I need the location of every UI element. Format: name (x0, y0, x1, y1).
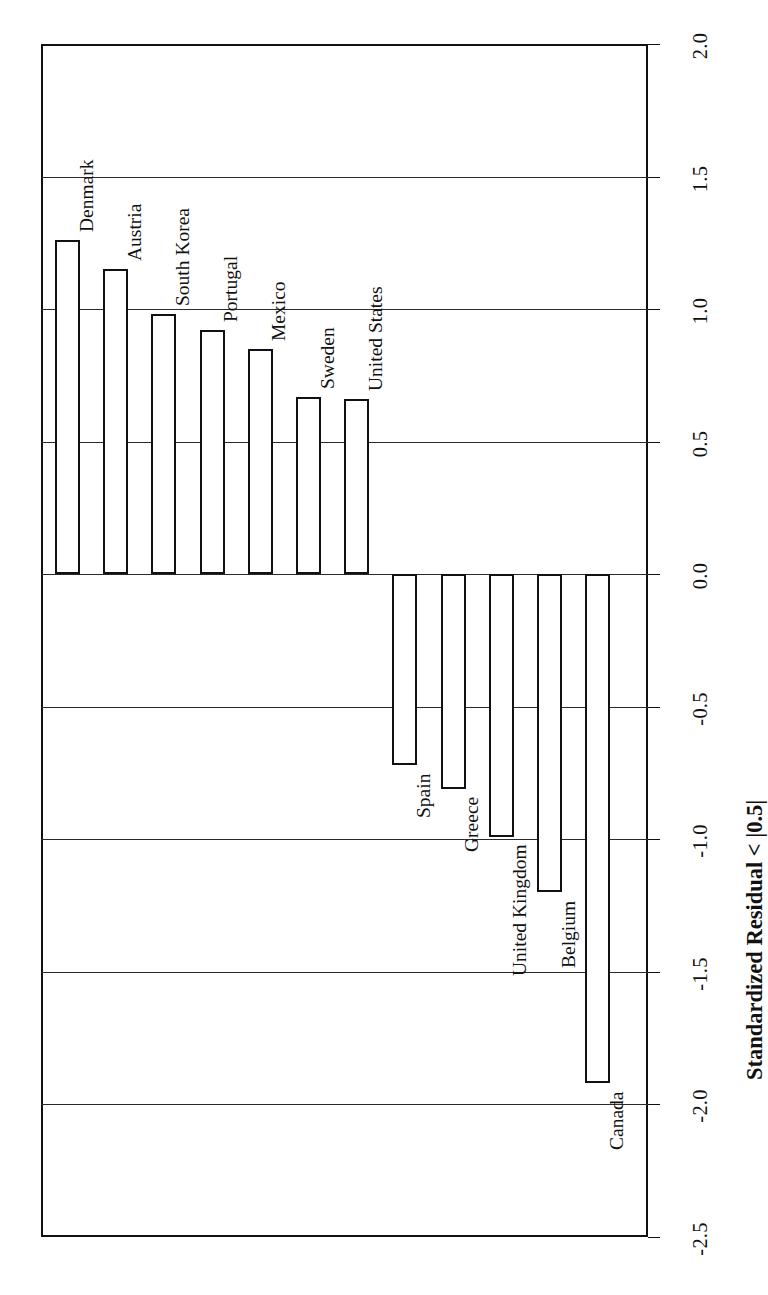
axis-tick-label: 1.5 (689, 119, 711, 239)
axis-tick (648, 1237, 660, 1238)
bar (200, 330, 225, 574)
bar (344, 399, 369, 574)
bar-label: Spain (414, 773, 434, 817)
bar-label: Mexico (269, 281, 289, 341)
axis-tick (648, 1104, 660, 1105)
axis-tick-label: -1.0 (689, 781, 711, 901)
axis-tick (648, 707, 660, 708)
plot-area: DenmarkAustriaSouth KoreaPortugalMexicoS… (41, 44, 648, 1237)
bar-label: Belgium (559, 900, 579, 967)
bar-label: Sweden (318, 327, 338, 389)
bar-label: Canada (607, 1091, 627, 1149)
gridline (41, 177, 648, 178)
axis-title: Standardized Residual < |0.5| (742, 800, 768, 1080)
axis-tick-label: -0.5 (689, 649, 711, 769)
axis-tick (648, 177, 660, 178)
axis-tick (648, 44, 660, 45)
bar (441, 574, 466, 789)
bar-label: United States (366, 287, 386, 392)
axis-tick-label: 1.0 (689, 251, 711, 371)
bar-label: Portugal (221, 256, 241, 322)
bar (151, 314, 176, 574)
axis-tick-label: 0.5 (689, 384, 711, 504)
axis-tick (648, 839, 660, 840)
bar (103, 269, 128, 574)
axis-tick (648, 309, 660, 310)
bar-label: Denmark (77, 160, 97, 233)
axis-tick (648, 442, 660, 443)
bar-label: Greece (462, 797, 482, 852)
gridline (41, 309, 648, 310)
axis-tick-label: 0.0 (689, 516, 711, 636)
axis-tick (648, 574, 660, 575)
bar (489, 574, 514, 836)
bar-label: South Korea (173, 208, 193, 306)
gridline (41, 972, 648, 973)
axis-tick (648, 972, 660, 973)
bar (55, 240, 80, 574)
bar (585, 574, 610, 1083)
axis-tick-label: -2.0 (689, 1046, 711, 1166)
axis-tick-label: -1.5 (689, 914, 711, 1034)
bar-label: Austria (125, 204, 145, 261)
axis-tick-label: 2.0 (689, 0, 711, 106)
bar (248, 349, 273, 574)
bar (296, 397, 321, 575)
axis-tick-label: -2.5 (689, 1179, 711, 1295)
bar (537, 574, 562, 892)
bar-label: United Kingdom (510, 845, 530, 977)
bar (392, 574, 417, 765)
gridline (41, 1104, 648, 1105)
